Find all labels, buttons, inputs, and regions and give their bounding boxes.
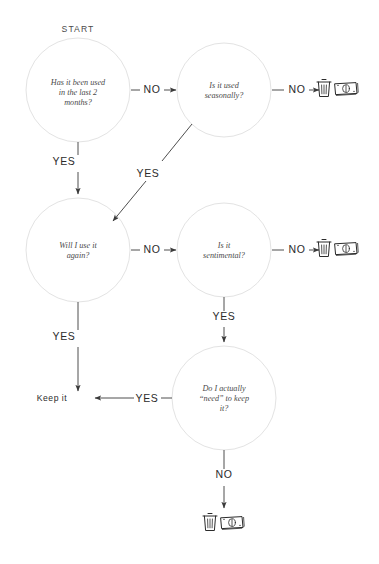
edge-q1-to-q2: NO: [131, 83, 176, 95]
money-icon: [221, 517, 244, 530]
q2-line-0: Is it used: [208, 81, 239, 90]
q4-line-0: Is it: [217, 241, 231, 250]
trash-icon: [317, 240, 331, 257]
q4-line-1: sentimental?: [203, 251, 246, 260]
edge-q3-to-keep: YES: [53, 302, 78, 391]
decision-node-q3[interactable]: [26, 198, 130, 302]
q1-line-1: in the last 2: [59, 88, 97, 97]
money-icon: [335, 243, 358, 256]
decision-node-q4[interactable]: [177, 203, 271, 297]
edge-label-yes-q4-q5: YES: [213, 310, 236, 322]
q1-line-2: months?: [64, 98, 93, 107]
edge-q3-to-q4: NO: [131, 243, 176, 255]
terminal-keep-it: Keep it: [37, 393, 67, 403]
edge-label-no-q4-discard: NO: [289, 243, 306, 255]
q5-line-1: “need” to keep: [199, 394, 249, 403]
edge-label-yes-q5-keep: YES: [136, 392, 159, 404]
trash-icon: [317, 80, 331, 97]
start-label: START: [62, 24, 95, 34]
q1-line-0: Has it been used: [50, 78, 106, 87]
edge-q2-to-q3-diagonal: YES: [113, 124, 192, 221]
outcome-discard-bottom: [203, 514, 244, 531]
edge-label-no-q2-discard: NO: [289, 83, 306, 95]
outcome-discard-mid: [317, 240, 358, 257]
edge-label-no-q3-q4: NO: [144, 243, 161, 255]
edge-label-yes-q2-q3: YES: [137, 167, 160, 179]
q5-line-2: it?: [220, 404, 230, 413]
flowchart-canvas: START Has it been used in the last 2 mon…: [0, 0, 379, 564]
edge-q5-to-keep: YES: [95, 392, 172, 404]
edge-q2-to-discard: NO: [272, 83, 319, 95]
decision-node-q2-text: Is it used seasonally?: [205, 81, 245, 100]
q2-line-1: seasonally?: [205, 91, 245, 100]
edge-label-yes-q1-q3: YES: [53, 155, 76, 167]
edge-label-no-q5-discard: NO: [216, 468, 233, 480]
trash-icon: [203, 514, 217, 531]
edge-q5-to-discard: NO: [216, 450, 233, 508]
decision-node-q2[interactable]: [177, 43, 271, 137]
q5-line-0: Do I actually: [201, 384, 246, 393]
money-icon: [335, 83, 358, 96]
edge-label-yes-q3-keep: YES: [53, 330, 76, 342]
outcome-discard-top: [317, 80, 358, 97]
q3-line-0: Will I use it: [59, 241, 97, 250]
edge-q4-to-q5: YES: [213, 297, 236, 342]
edge-q1-to-q3: YES: [53, 142, 78, 194]
edge-label-no-q1-q2: NO: [144, 83, 161, 95]
q3-line-1: again?: [67, 251, 91, 260]
edge-q4-to-discard: NO: [272, 243, 319, 255]
